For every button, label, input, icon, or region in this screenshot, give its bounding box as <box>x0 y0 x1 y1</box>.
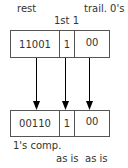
arrowhead-icon <box>33 101 40 110</box>
bottom-cell-trailing: 00 <box>74 111 109 136</box>
label-as-is-trailing: as is <box>85 153 108 165</box>
label-as-is-first: as is <box>56 153 79 165</box>
bottom-cell-rest: 00110 <box>11 111 59 136</box>
arrowhead-icon <box>86 101 93 110</box>
label-ones-complement: 1's comp. <box>13 140 61 152</box>
bottom-binary-box: 00110 1 00 <box>10 110 110 137</box>
bottom-cell-first-one: 1 <box>59 111 74 136</box>
arrowhead-icon <box>62 101 69 110</box>
